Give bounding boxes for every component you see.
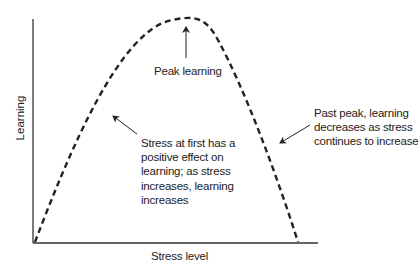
- left-annotation-line: increases: [141, 193, 235, 207]
- left-annotation-line: learning; as stress: [141, 164, 235, 178]
- left-annotation: Stress at first has a positive effect on…: [141, 136, 235, 207]
- right-annotation-line: Past peak, learning: [314, 106, 418, 120]
- right-annotation-line: continues to increase: [314, 134, 418, 148]
- left-annotation-line: increases, learning: [141, 179, 235, 193]
- peak-label: Peak learning: [154, 64, 222, 78]
- right-annotation: Past peak, learning decreases as stress …: [314, 106, 418, 149]
- y-axis-label: Learning: [14, 96, 26, 141]
- right-annotation-line: decreases as stress: [314, 120, 418, 134]
- left-annotation-arrow-icon: [113, 116, 137, 134]
- learning-curve: [35, 18, 298, 242]
- x-axis-label: Stress level: [151, 249, 208, 263]
- right-annotation-arrow-icon: [280, 125, 310, 143]
- left-annotation-line: positive effect on: [141, 150, 235, 164]
- left-annotation-line: Stress at first has a: [141, 136, 235, 150]
